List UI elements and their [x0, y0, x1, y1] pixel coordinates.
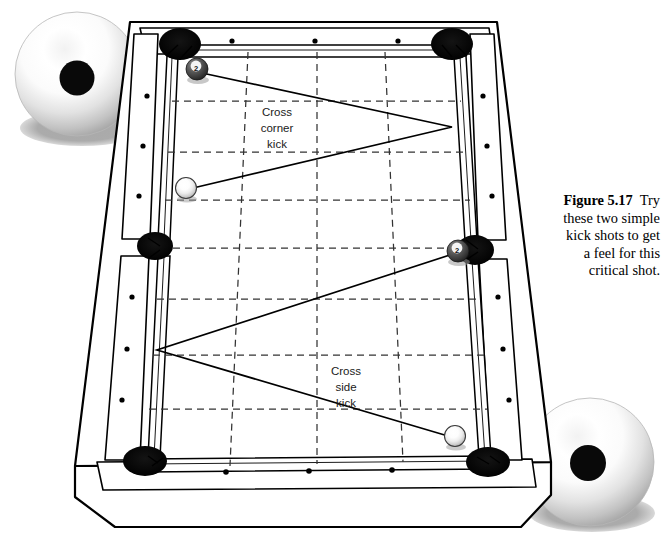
caption-line-4: a feel for this — [584, 245, 660, 261]
sight-dot — [489, 193, 494, 198]
ball-number-label: 2 — [455, 246, 459, 255]
label-line-2: corner — [238, 120, 316, 136]
cue-ball-left — [176, 178, 198, 203]
two-ball-right-side: 2 — [447, 240, 470, 266]
pocket-top-left — [159, 28, 201, 60]
sight-dot — [124, 346, 129, 351]
two-ball-top-left: 2 — [186, 58, 209, 84]
caption-line-2: these two simple — [563, 210, 660, 226]
contact-point-dot — [570, 445, 606, 481]
sight-dot — [506, 397, 511, 402]
sight-dot — [312, 38, 317, 43]
pocket-side-left — [137, 232, 173, 260]
sight-dot — [229, 38, 234, 43]
sight-dot — [144, 93, 149, 98]
pool-table: 2 2 — [75, 22, 551, 527]
caption-line-1: Try — [640, 192, 660, 208]
contact-point-dot — [60, 61, 95, 96]
sight-dot — [484, 143, 489, 148]
label-cross-side-kick: Cross side kick — [307, 363, 385, 411]
sight-dot — [500, 346, 505, 351]
label-line-1: Cross — [307, 363, 385, 379]
ball-number-label: 2 — [194, 64, 198, 73]
label-cross-corner-kick: Cross corner kick — [238, 104, 316, 152]
figure-caption: Figure 5.17Try these two simple kick sho… — [506, 192, 660, 280]
label-line-2: side — [307, 379, 385, 395]
sight-dot — [306, 468, 312, 474]
sight-dot — [119, 397, 124, 402]
figure-number: Figure 5.17 — [563, 192, 632, 208]
label-line-3: kick — [238, 136, 316, 152]
sight-dot — [223, 469, 229, 475]
pocket-bottom-right — [466, 447, 510, 477]
cue-ball-bottom-right — [445, 426, 467, 451]
sight-dot — [389, 467, 395, 473]
caption-line-3: kick shots to get — [566, 227, 660, 243]
figure-5-17: 2 2 Cross — [0, 0, 666, 544]
sight-dot — [480, 93, 485, 98]
sight-dot — [136, 193, 141, 198]
sight-dot — [140, 143, 145, 148]
sight-dot — [495, 294, 500, 299]
sight-dot — [395, 38, 400, 43]
caption-line-5: critical shot. — [589, 262, 660, 278]
label-line-1: Cross — [238, 104, 316, 120]
sight-dot — [129, 294, 134, 299]
pocket-bottom-left — [123, 446, 167, 476]
label-line-3: kick — [307, 395, 385, 411]
